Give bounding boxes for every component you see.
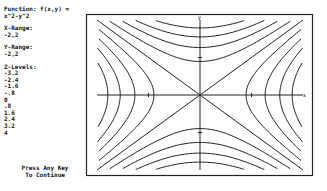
contour-plot: x y	[0, 0, 327, 191]
y-axis-label: y	[198, 14, 201, 21]
x-axis-label: x	[303, 92, 306, 98]
